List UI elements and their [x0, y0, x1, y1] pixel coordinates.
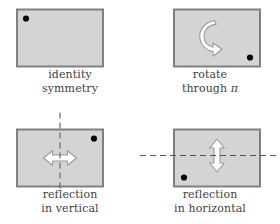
- panel-reflection-vertical-caption: reflection in vertical: [0, 188, 140, 215]
- rectangle-shape: [17, 10, 103, 67]
- panel-rotation-diagram: [140, 0, 280, 70]
- panel-identity-caption: identity symmetry: [0, 68, 140, 95]
- reflection-horizontal-rectangle-svg: [140, 112, 280, 192]
- caption-line-2: in horizontal: [140, 202, 280, 216]
- corner-dot-bottom-left: [181, 174, 187, 180]
- panel-rotation: rotate through π: [140, 0, 280, 112]
- panel-reflection-vertical: reflection in vertical: [0, 112, 140, 224]
- corner-dot-top-right: [91, 135, 97, 141]
- caption-line-2: symmetry: [0, 82, 140, 96]
- caption-line-2: in vertical: [0, 202, 140, 216]
- symmetry-figure: identity symmetry rotate through π: [0, 0, 280, 224]
- panel-reflection-horizontal-diagram: [140, 112, 280, 182]
- rotation-rectangle-svg: [140, 0, 280, 70]
- panel-reflection-vertical-diagram: [0, 112, 140, 182]
- panel-identity-symmetry: identity symmetry: [0, 0, 140, 112]
- identity-rectangle-svg: [0, 0, 140, 70]
- corner-dot-bottom-right: [247, 54, 253, 60]
- pi-symbol: π: [231, 82, 238, 95]
- panel-reflection-horizontal-caption: reflection in horizontal: [140, 188, 280, 215]
- caption-line-1: reflection: [0, 188, 140, 202]
- reflection-vertical-rectangle-svg: [0, 112, 140, 192]
- panel-identity-diagram: [0, 0, 140, 70]
- caption-line-2-text: through: [182, 82, 231, 95]
- caption-line-1: rotate: [140, 68, 280, 82]
- panel-reflection-horizontal: reflection in horizontal: [140, 112, 280, 224]
- caption-line-1: reflection: [140, 188, 280, 202]
- panel-rotation-caption: rotate through π: [140, 68, 280, 95]
- caption-line-2: through π: [140, 82, 280, 96]
- corner-dot-top-left: [23, 15, 29, 21]
- caption-line-1: identity: [0, 68, 140, 82]
